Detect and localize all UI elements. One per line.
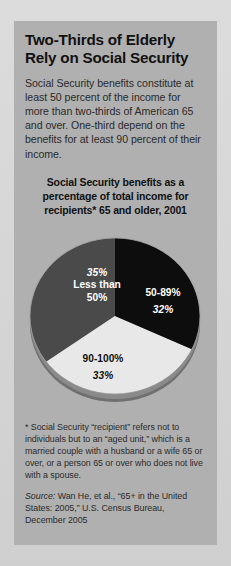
page-title: Two-Thirds of Elderly Rely on Social Sec… xyxy=(25,31,206,67)
footnote: * Social Security “recipient” refers not… xyxy=(25,421,206,481)
infographic-panel: Two-Thirds of Elderly Rely on Social Sec… xyxy=(14,21,217,545)
headline-line-1: Two-Thirds of Elderly xyxy=(25,31,206,49)
headline-line-2: Rely on Social Security xyxy=(25,49,206,67)
pie-chart: 35% Less than 50% 50-89% 32% 90-100% 33% xyxy=(25,223,206,415)
chart-title-line-2: percentage of total income for xyxy=(27,189,204,203)
source-line: Source: Wan He, et al., “65+ in the Unit… xyxy=(25,490,206,526)
chart-title: Social Security benefits as a percentage… xyxy=(27,175,204,217)
pie-chart-svg xyxy=(25,223,206,415)
source-label: Source: xyxy=(25,491,55,501)
chart-title-line-1: Social Security benefits as a xyxy=(27,175,204,189)
lede-paragraph: Social Security benefits constitute at l… xyxy=(25,76,206,161)
chart-title-line-3: recipients* 65 and older, 2001 xyxy=(27,203,204,217)
